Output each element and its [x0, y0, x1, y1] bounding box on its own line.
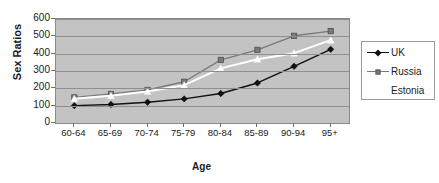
sex-ratios-line-chart: Sex Ratios 6005004003002001000 60-6465-6…	[0, 0, 439, 183]
y-tick-mark	[51, 53, 55, 54]
x-tick-label: 75-79	[171, 127, 195, 138]
legend-item-uk[interactable]: UK	[362, 43, 434, 62]
x-tick-label: 65-69	[98, 127, 122, 138]
y-tick-mark	[51, 35, 55, 36]
data-point-marker	[108, 101, 114, 107]
y-tick-label: 400	[16, 48, 50, 58]
x-tick-label: 60-64	[61, 127, 85, 138]
x-tick-mark	[110, 123, 111, 127]
gridline	[56, 36, 349, 37]
data-point-marker	[291, 63, 297, 69]
data-point-marker	[327, 46, 333, 52]
legend-item-estonia[interactable]: Estonia	[362, 81, 434, 100]
gridline	[56, 88, 349, 89]
data-point-marker	[255, 47, 260, 52]
data-point-marker	[218, 90, 224, 96]
data-point-marker	[254, 80, 260, 86]
y-tick-mark	[51, 87, 55, 88]
data-point-marker	[218, 57, 223, 62]
gridline	[56, 71, 349, 72]
y-tick-label: 500	[16, 30, 50, 40]
y-tick-label: 300	[16, 65, 50, 75]
y-tick-label: 600	[16, 13, 50, 23]
diamond-icon	[365, 46, 391, 60]
data-point-marker	[144, 99, 150, 105]
data-point-marker	[181, 96, 187, 102]
plot-area	[55, 18, 350, 124]
x-tick-mark	[330, 123, 331, 127]
x-tick-mark	[147, 123, 148, 127]
legend-label: UK	[391, 47, 405, 58]
y-tick-label: 0	[16, 117, 50, 127]
data-point-marker	[328, 29, 333, 34]
x-tick-label: 70-74	[134, 127, 158, 138]
gridline	[56, 106, 349, 107]
legend-item-russia[interactable]: Russia	[362, 62, 434, 81]
y-tick-label: 100	[16, 100, 50, 110]
x-tick-mark	[220, 123, 221, 127]
y-tick-mark	[51, 70, 55, 71]
x-axis-title: Age	[55, 161, 348, 172]
x-tick-mark	[256, 123, 257, 127]
data-point-marker	[327, 37, 334, 44]
chart-legend: UKRussiaEstonia	[361, 41, 435, 100]
series-line	[74, 40, 330, 99]
x-tick-label: 85-89	[244, 127, 268, 138]
square-icon	[365, 65, 391, 79]
legend-label: Estonia	[391, 85, 424, 96]
x-tick-label: 80-84	[208, 127, 232, 138]
x-tick-label: 90-94	[281, 127, 305, 138]
legend-label: Russia	[391, 66, 422, 77]
x-tick-mark	[183, 123, 184, 127]
gridline	[56, 54, 349, 55]
gridline	[56, 19, 349, 20]
x-tick-label: 95+	[322, 127, 338, 138]
triangle-icon	[365, 84, 391, 98]
x-tick-mark	[293, 123, 294, 127]
y-tick-mark	[51, 105, 55, 106]
y-tick-mark	[51, 122, 55, 123]
x-tick-mark	[73, 123, 74, 127]
y-tick-mark	[51, 18, 55, 19]
y-tick-label: 200	[16, 82, 50, 92]
